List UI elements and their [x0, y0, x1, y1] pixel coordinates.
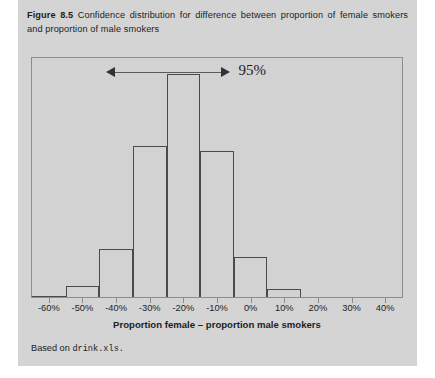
histogram-bar — [133, 146, 167, 297]
x-axis-title: Proportion female – proportion male smok… — [31, 319, 403, 330]
x-axis-tick-label: 30% — [342, 303, 361, 313]
figure-caption: Figure 8.5 Confidence distribution for d… — [27, 8, 408, 36]
histogram-bar — [167, 74, 201, 297]
histogram-bar — [32, 296, 66, 297]
x-axis-tick-label: -50% — [72, 303, 94, 313]
chart-plot-area — [32, 58, 402, 297]
x-axis-tick-label: -40% — [105, 303, 127, 313]
x-axis-tick-label: 40% — [376, 303, 395, 313]
source-note-suffix: . — [119, 344, 124, 354]
histogram-bar — [267, 289, 301, 297]
figure-label: Figure 8.5 — [27, 10, 73, 20]
x-axis-tick-label: -30% — [139, 303, 161, 313]
x-axis-tick-label: 10% — [275, 303, 294, 313]
chart-plot-frame: 95% — [31, 57, 403, 298]
x-axis-tick-label: -60% — [38, 303, 60, 313]
source-note: Based on drink.xls. — [31, 343, 124, 354]
x-axis-tick-label: 20% — [309, 303, 328, 313]
figure-caption-text: Confidence distribution for difference b… — [27, 10, 408, 34]
figure-card: Figure 8.5 Confidence distribution for d… — [18, 0, 417, 366]
source-note-file: drink.xls — [72, 344, 118, 354]
histogram-bar — [66, 286, 100, 297]
source-note-prefix: Based on — [31, 343, 70, 353]
histogram-bar — [234, 257, 268, 297]
x-axis-tick-label: -10% — [206, 303, 228, 313]
x-axis-tick-label: -20% — [173, 303, 195, 313]
x-axis-tick-label: 0% — [244, 303, 257, 313]
histogram-bar — [99, 249, 133, 297]
histogram-bar — [200, 151, 234, 297]
x-axis-tick-labels: -60%-50%-40%-30%-20%-10%0%10%20%30%40% — [31, 303, 403, 317]
